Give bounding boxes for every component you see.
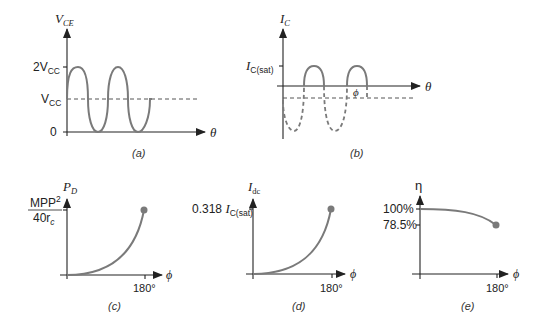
ic-conduction-hump-2 bbox=[347, 66, 367, 86]
x-axis-label: θ bbox=[425, 79, 432, 94]
y-axis-label: Idc bbox=[247, 179, 261, 196]
conduction-angle-label: ϕ bbox=[353, 86, 359, 98]
x-axis-label: ϕ bbox=[350, 267, 356, 281]
caption-a: (a) bbox=[132, 147, 146, 159]
tick-label-zero: 0 bbox=[50, 125, 57, 139]
x-tick-label-180: 180° bbox=[320, 282, 343, 294]
tick-label-vcc: VCC bbox=[41, 92, 61, 108]
x-axis-label: ϕ bbox=[513, 267, 519, 281]
tick-label-numerator: MPP2 bbox=[30, 194, 61, 210]
x-axis-label: θ bbox=[210, 125, 217, 140]
y-axis-label: η bbox=[415, 178, 422, 193]
caption-c: (c) bbox=[108, 300, 121, 312]
tick-label-2vcc: 2VCC bbox=[33, 60, 60, 76]
y-axis-label: PD bbox=[62, 179, 78, 196]
caption-d: (d) bbox=[292, 300, 306, 312]
pd-curve bbox=[67, 210, 144, 275]
efficiency-curve bbox=[420, 209, 496, 225]
ic-conduction-hump-1 bbox=[304, 66, 324, 86]
x-tick-label-180: 180° bbox=[486, 282, 509, 294]
tick-label-max: 0.318 IC(sat) bbox=[192, 201, 253, 218]
tick-label-icsat: IC(sat) bbox=[245, 58, 274, 75]
idc-curve bbox=[253, 209, 331, 274]
x-tick-label-180: 180° bbox=[133, 282, 156, 294]
panel-b: IC θ IC(sat) ϕ (b) bbox=[245, 11, 432, 159]
tick-label-denominator: 40rc bbox=[33, 211, 55, 227]
panel-c: PD ϕ MPP2 40rc 180° (c) bbox=[28, 179, 172, 312]
end-point-marker bbox=[493, 222, 500, 229]
end-point-marker bbox=[141, 207, 148, 214]
caption-e: (e) bbox=[461, 300, 475, 312]
caption-b: (b) bbox=[350, 147, 364, 159]
panel-a: VCE θ 2VCC VCC 0 (a) bbox=[33, 11, 217, 159]
tick-label-100: 100% bbox=[383, 202, 414, 216]
end-point-marker bbox=[328, 206, 335, 213]
y-axis-label: IC bbox=[279, 11, 290, 28]
tick-label-78-5: 78.5% bbox=[383, 218, 417, 232]
panel-e: η ϕ 100% 78.5% 180° (e) bbox=[383, 178, 519, 312]
y-axis-label: VCE bbox=[55, 11, 75, 28]
panel-d: Idc ϕ 0.318 IC(sat) 180° (d) bbox=[192, 179, 356, 312]
x-axis-label: ϕ bbox=[166, 268, 172, 282]
figure: VCE θ 2VCC VCC 0 (a) IC θ IC(sat) ϕ (b) … bbox=[0, 0, 547, 329]
